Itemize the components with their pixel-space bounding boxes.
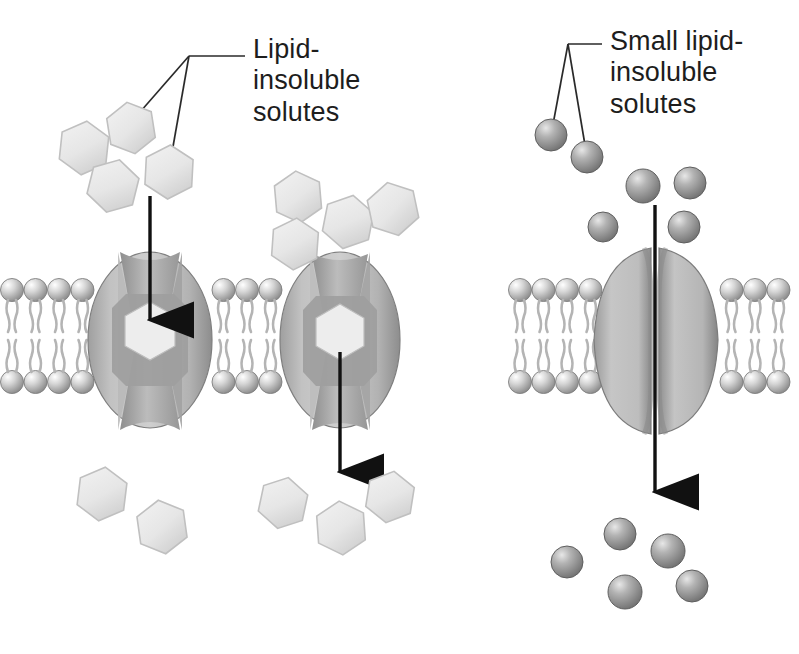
small-lipid-insoluble-solute <box>588 212 618 242</box>
small-lipid-insoluble-solute <box>535 119 567 151</box>
lipid-insoluble-solute <box>316 499 366 556</box>
lipid-insoluble-solute <box>256 473 311 533</box>
lipid-insoluble-solute <box>105 99 158 157</box>
small-lipid-insoluble-solute <box>551 546 583 578</box>
small-lipid-insoluble-solute <box>668 211 700 243</box>
label-small-lipid-insoluble-solutes: Small lipid- insoluble solutes <box>610 26 743 120</box>
lipid-insoluble-solute <box>75 464 128 523</box>
small-lipid-insoluble-solute <box>608 575 642 609</box>
small-lipid-insoluble-solute <box>651 534 685 568</box>
figure-canvas: Lipid- insoluble solutes Small lipid- in… <box>0 0 799 654</box>
small-lipid-insoluble-solute <box>626 169 660 203</box>
small-lipid-insoluble-solute <box>676 570 708 602</box>
small-lipid-insoluble-solute <box>674 167 706 199</box>
label-lipid-insoluble-solutes: Lipid- insoluble solutes <box>253 34 360 128</box>
lipid-insoluble-solute <box>144 144 194 200</box>
lipid-insoluble-solute <box>364 468 417 526</box>
lipid-insoluble-solute <box>364 178 421 241</box>
small-lipid-insoluble-solute <box>571 141 603 173</box>
lipid-insoluble-solute <box>273 169 322 225</box>
lipid-insoluble-solute <box>135 497 189 557</box>
small-lipid-insoluble-solute <box>604 518 636 550</box>
